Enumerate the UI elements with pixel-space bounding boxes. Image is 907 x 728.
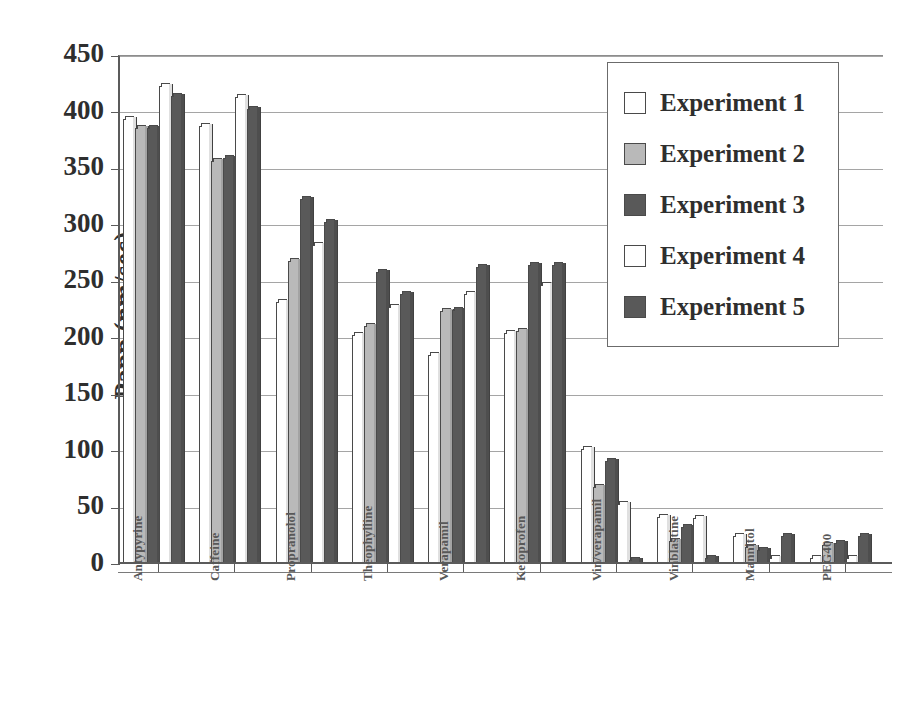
bar[interactable]: [159, 86, 170, 564]
bar[interactable]: [324, 222, 335, 564]
x-axis-tick-label: PEG400: [819, 534, 835, 581]
y-axis-tick-label: 200: [42, 323, 104, 350]
y-axis-tick-label: 100: [42, 436, 104, 463]
bar[interactable]: [211, 161, 222, 564]
x-label-cell: Theophylline: [348, 575, 425, 725]
bar[interactable]: [552, 265, 563, 564]
legend-swatch-experiment-2: [624, 143, 646, 165]
bar[interactable]: [123, 119, 134, 564]
legend-item[interactable]: Experiment 4: [624, 230, 838, 281]
x-axis-tick-label: Vin/verapamil: [589, 499, 605, 581]
x-axis-tick-label: Mannitol: [742, 528, 758, 581]
bar-chart: Papp (nm/sec) 05010015020025030035040045…: [0, 0, 907, 728]
bar[interactable]: [235, 97, 246, 564]
x-label-cell: Propranolol: [271, 575, 348, 725]
y-axis-tick: [111, 282, 120, 283]
bar[interactable]: [199, 126, 210, 564]
legend: Experiment 1 Experiment 2 Experiment 3 E…: [607, 62, 839, 347]
bar[interactable]: [300, 199, 311, 564]
y-axis-tick-label: 350: [42, 153, 104, 180]
legend-item[interactable]: Experiment 5: [624, 281, 838, 332]
y-axis-tick-label: 250: [42, 266, 104, 293]
legend-label: Experiment 5: [660, 293, 805, 321]
bar[interactable]: [464, 294, 475, 564]
y-axis-tick: [111, 225, 120, 226]
legend-label: Experiment 3: [660, 191, 805, 219]
x-label-cell: Antypyrine: [118, 575, 195, 725]
legend-swatch-experiment-1: [624, 92, 646, 114]
x-axis-tick-label: Theophylline: [360, 506, 376, 581]
bar[interactable]: [617, 504, 628, 564]
bar[interactable]: [135, 128, 146, 564]
y-axis-tick-label: 300: [42, 210, 104, 237]
x-label-cell: Verapamil: [424, 575, 501, 725]
bar-group: [501, 56, 577, 564]
bar-group: [349, 56, 425, 564]
bar[interactable]: [171, 96, 182, 564]
bar[interactable]: [605, 461, 616, 564]
y-axis-tick-label: 450: [42, 40, 104, 67]
legend-swatch-experiment-5: [624, 296, 646, 318]
x-axis-tick-label: Vinblastine: [666, 516, 682, 581]
legend-label: Experiment 4: [660, 242, 805, 270]
x-label-cell: Caffeine: [195, 575, 272, 725]
x-axis-tick-label: Ketoprofen: [513, 516, 529, 581]
legend-item[interactable]: Experiment 1: [624, 77, 838, 128]
bar[interactable]: [223, 158, 234, 564]
x-axis-tick-label: Caffeine: [207, 532, 223, 581]
x-axis-tick-labels: AntypyrineCaffeinePropranololTheophyllin…: [118, 575, 883, 725]
x-axis-line-secondary: [118, 572, 892, 573]
y-axis-tick: [111, 112, 120, 113]
bar[interactable]: [781, 536, 792, 564]
bar[interactable]: [834, 543, 845, 564]
legend-item[interactable]: Experiment 2: [624, 128, 838, 179]
x-axis-tick-label: Propranolol: [283, 512, 299, 581]
x-label-cell: Vinblastine: [654, 575, 731, 725]
y-axis-tick: [111, 338, 120, 339]
x-axis-line: [118, 562, 892, 564]
x-label-cell: Vin/verapamil: [577, 575, 654, 725]
bar-group: [196, 56, 272, 564]
y-axis-tick-label: 50: [42, 492, 104, 519]
legend-swatch-experiment-4: [624, 245, 646, 267]
x-axis-tick-label: Verapamil: [436, 521, 452, 581]
x-axis-tick-label: Antypyrine: [130, 515, 146, 581]
bar[interactable]: [312, 245, 323, 564]
legend-label: Experiment 2: [660, 140, 805, 168]
x-label-cell: Mannitol: [730, 575, 807, 725]
bar-group: [120, 56, 196, 564]
y-axis-tick: [111, 564, 120, 565]
y-axis-tick-label: 400: [42, 97, 104, 124]
legend-item[interactable]: Experiment 3: [624, 179, 838, 230]
y-axis-tick: [111, 451, 120, 452]
bar[interactable]: [693, 518, 704, 564]
bar[interactable]: [452, 310, 463, 564]
bar[interactable]: [528, 265, 539, 564]
legend-swatch-experiment-3: [624, 194, 646, 216]
bar[interactable]: [681, 527, 692, 564]
y-axis-tick-label: 0: [42, 549, 104, 576]
y-axis-tick-label: 150: [42, 379, 104, 406]
y-axis-tick: [111, 169, 120, 170]
bar[interactable]: [376, 272, 387, 564]
bar-group: [273, 56, 349, 564]
y-axis-tick: [111, 56, 120, 57]
x-label-cell: Ketoprofen: [501, 575, 578, 725]
x-label-cell: PEG400: [807, 575, 884, 725]
bar[interactable]: [858, 536, 869, 564]
bar[interactable]: [400, 294, 411, 564]
y-axis-tick: [111, 508, 120, 509]
bar[interactable]: [540, 285, 551, 564]
bar[interactable]: [388, 307, 399, 564]
bar[interactable]: [476, 267, 487, 564]
bar[interactable]: [147, 128, 158, 564]
bar[interactable]: [247, 109, 258, 564]
y-axis-tick: [111, 395, 120, 396]
bar-group: [425, 56, 501, 564]
legend-label: Experiment 1: [660, 89, 805, 117]
